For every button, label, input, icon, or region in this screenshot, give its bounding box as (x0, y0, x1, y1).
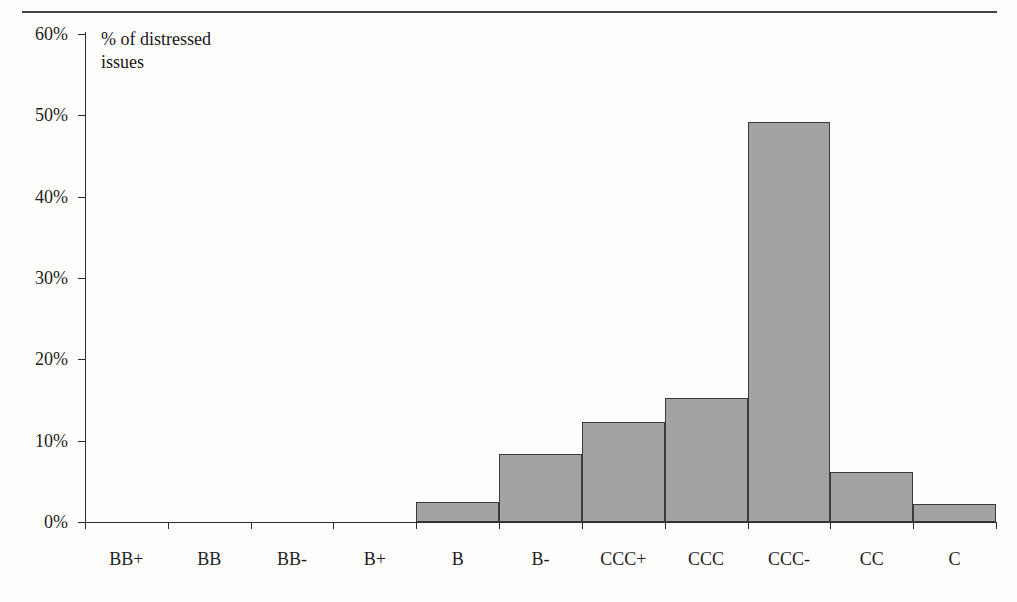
chart-annotation: % of distressed issues (101, 28, 211, 74)
x-axis-tick-mark (582, 522, 583, 529)
x-axis-tick-label: CCC (665, 549, 748, 569)
x-axis-tick-mark (996, 522, 997, 529)
y-axis-tick-mark (78, 359, 85, 360)
x-axis-tick-label: B (416, 549, 499, 569)
y-axis-tick-label: 20% (8, 350, 68, 368)
y-axis-tick-label: 50% (8, 106, 68, 124)
x-axis-tick-mark (168, 522, 169, 529)
y-axis-tick-mark (78, 115, 85, 116)
y-axis-tick-mark (78, 278, 85, 279)
x-axis-tick-label: BB+ (85, 549, 168, 569)
x-axis-tick-label: CC (830, 549, 913, 569)
bar (830, 472, 913, 522)
bar (748, 122, 831, 522)
x-axis-tick-mark (333, 522, 334, 529)
x-axis-tick-label: C (913, 549, 996, 569)
bar (499, 454, 582, 522)
x-axis-tick-mark (251, 522, 252, 529)
x-axis-tick-mark (416, 522, 417, 529)
y-axis-tick-label: 10% (8, 432, 68, 450)
x-axis-tick-mark (85, 522, 86, 529)
x-axis (85, 522, 996, 523)
x-axis-tick-mark (499, 522, 500, 529)
x-axis-tick-label: BB- (251, 549, 334, 569)
x-axis-tick-mark (913, 522, 914, 529)
x-axis-tick-label: BB (168, 549, 251, 569)
y-axis-tick-mark (78, 522, 85, 523)
x-axis-tick-mark (665, 522, 666, 529)
y-axis-tick-label: 60% (8, 25, 68, 43)
y-axis-tick-label: 0% (8, 513, 68, 531)
y-axis-tick-mark (78, 34, 85, 35)
x-axis-tick-label: CCC- (748, 549, 831, 569)
bar-chart: 0%10%20%30%40%50%60% BB+BBBB-B+BB-CCC+CC… (0, 0, 1017, 602)
bar (582, 422, 665, 522)
document-page: 0%10%20%30%40%50%60% BB+BBBB-B+BB-CCC+CC… (0, 0, 1017, 602)
x-axis-tick-label: B- (499, 549, 582, 569)
x-axis-tick-mark (748, 522, 749, 529)
x-axis-tick-mark (830, 522, 831, 529)
y-axis-tick-label: 40% (8, 188, 68, 206)
y-axis-tick-label: 30% (8, 269, 68, 287)
bar (416, 502, 499, 522)
x-axis-tick-label: CCC+ (582, 549, 665, 569)
y-axis (85, 32, 86, 524)
y-axis-tick-mark (78, 197, 85, 198)
x-axis-tick-label: B+ (333, 549, 416, 569)
y-axis-tick-mark (78, 441, 85, 442)
bar (665, 398, 748, 522)
bar (913, 504, 996, 522)
